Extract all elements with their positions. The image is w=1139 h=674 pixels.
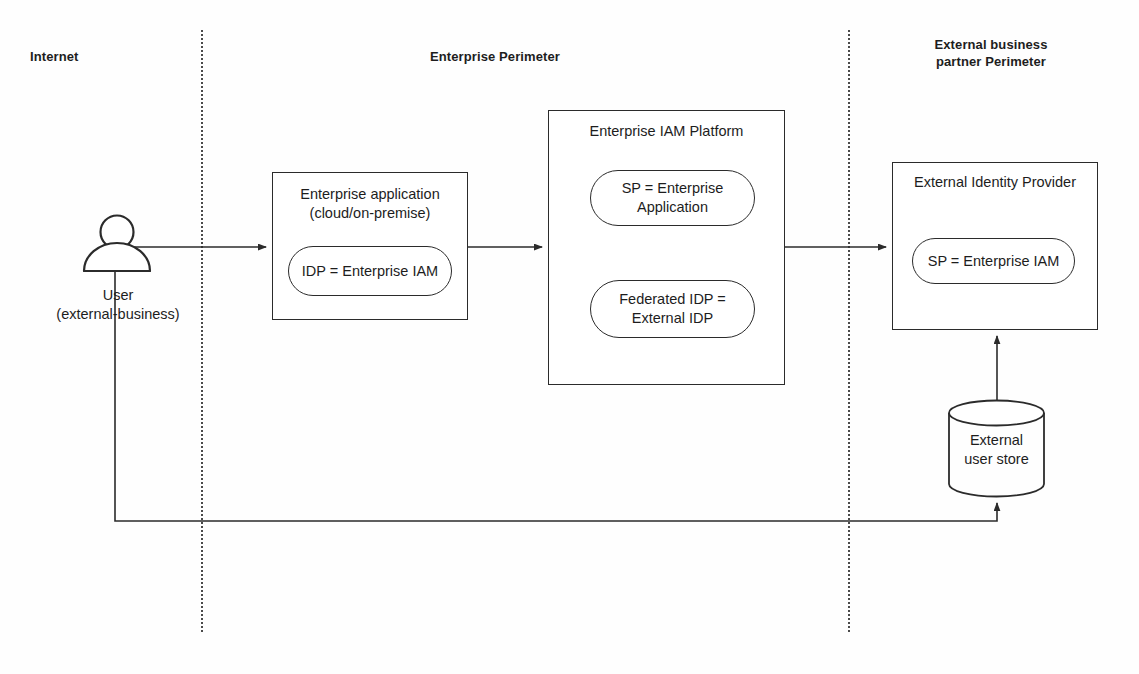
pill-idp-enterprise-iam[interactable]: IDP = Enterprise IAM — [288, 246, 452, 296]
user-label: User (external-business) — [20, 286, 216, 324]
user-icon — [78, 214, 156, 272]
node-enterprise-iam-platform[interactable]: Enterprise IAM Platform — [548, 110, 785, 385]
node-external-identity-provider-title: External Identity Provider — [893, 173, 1097, 192]
database-cylinder-icon[interactable] — [947, 399, 1046, 498]
pill-sp-enterprise-iam[interactable]: SP = Enterprise IAM — [912, 238, 1075, 284]
node-enterprise-application-title: Enterprise application (cloud/on-premise… — [273, 185, 467, 223]
pill-sp-enterprise-application[interactable]: SP = Enterprise Application — [590, 170, 755, 226]
pill-federated-idp-external-idp[interactable]: Federated IDP = External IDP — [590, 280, 755, 338]
diagram-canvas: Internet Enterprise Perimeter External b… — [0, 0, 1139, 674]
node-enterprise-iam-platform-title: Enterprise IAM Platform — [549, 122, 784, 141]
